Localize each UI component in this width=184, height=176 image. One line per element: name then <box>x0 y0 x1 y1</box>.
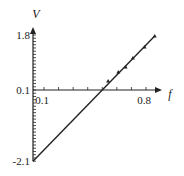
y-tick-label: 1.8 <box>16 29 30 41</box>
y-tick-label: 0.1 <box>16 84 30 96</box>
y-axis-label: V <box>32 7 41 21</box>
data-point <box>153 34 157 38</box>
data-point <box>106 79 110 83</box>
x-tick-label: 0.1 <box>35 94 49 106</box>
y-tick-label: -2.1 <box>13 155 30 167</box>
y-axis-arrow <box>30 27 36 34</box>
x-axis-label: f <box>168 87 173 101</box>
labels: V f 1.80.1-2.10.10.8 <box>13 7 174 167</box>
x-axis-arrow <box>155 87 162 93</box>
chart: V f 1.80.1-2.10.10.8 <box>0 0 184 176</box>
x-tick-label: 0.8 <box>137 94 151 106</box>
